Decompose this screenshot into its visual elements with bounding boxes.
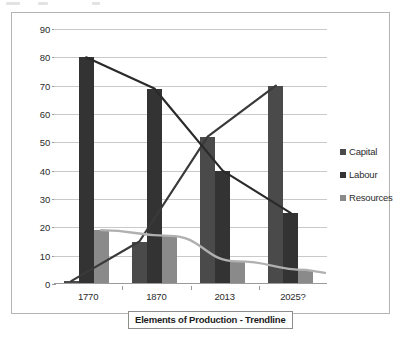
scan-artifact	[0, 0, 401, 10]
y-axis-tick-label: 20	[40, 222, 50, 233]
bar-labour	[147, 89, 162, 285]
chart-container: 0102030405060708090 1770187020132025? Ca…	[11, 12, 390, 314]
legend-item-labour[interactable]: Labour	[340, 169, 401, 180]
y-axis-tick-label: 40	[40, 165, 50, 176]
chart-title: Elements of Production - Trendline	[128, 311, 293, 329]
bar-capital	[200, 137, 215, 284]
legend-label: Resources	[349, 192, 393, 203]
bar-labour	[79, 57, 94, 284]
bar-capital	[268, 86, 283, 284]
y-axis-tick-mark	[52, 284, 56, 285]
x-axis-line	[54, 283, 327, 284]
bar-capital	[132, 242, 147, 285]
legend-label: Labour	[349, 169, 377, 180]
bar-group	[132, 29, 177, 284]
legend-label: Capital	[349, 146, 377, 157]
plot-area	[54, 29, 327, 284]
bar-resources	[298, 270, 313, 284]
legend-item-capital[interactable]: Capital	[340, 146, 401, 157]
x-axis-tick-mark	[122, 286, 123, 290]
y-axis-tick-label: 50	[40, 137, 50, 148]
chart-legend: CapitalLabourResources	[340, 146, 401, 215]
legend-swatch-icon	[340, 195, 346, 201]
y-axis-tick-label: 90	[40, 24, 50, 35]
bar-labour	[215, 171, 230, 284]
bar-labour	[283, 213, 298, 284]
bar-resources	[94, 230, 109, 284]
bar-resources	[230, 261, 245, 284]
x-axis-tick-label: 1870	[146, 291, 166, 302]
y-axis-tick-label: 30	[40, 194, 50, 205]
x-axis-tick-mark	[259, 286, 260, 290]
bar-group	[64, 29, 109, 284]
y-axis-tick-label: 70	[40, 80, 50, 91]
bar-group	[268, 29, 313, 284]
x-axis-tick-label: 2025?	[280, 291, 305, 302]
y-axis-tick-label: 0	[45, 279, 50, 290]
y-axis-tick-label: 10	[40, 250, 50, 261]
bar-resources	[162, 236, 177, 284]
x-axis-tick-mark	[191, 286, 192, 290]
bar-group	[200, 29, 245, 284]
legend-swatch-icon	[340, 149, 346, 155]
y-axis: 0102030405060708090	[26, 29, 52, 284]
x-axis: 1770187020132025?	[54, 286, 327, 308]
x-axis-tick-label: 1770	[78, 291, 98, 302]
y-axis-tick-label: 60	[40, 109, 50, 120]
legend-item-resources[interactable]: Resources	[340, 192, 401, 203]
x-axis-tick-label: 2013	[214, 291, 234, 302]
legend-swatch-icon	[340, 172, 346, 178]
trendline-labour	[86, 57, 291, 213]
y-axis-tick-label: 80	[40, 52, 50, 63]
